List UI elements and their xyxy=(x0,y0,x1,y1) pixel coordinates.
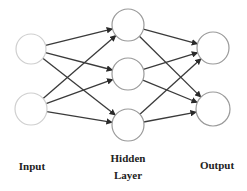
hidden-node-h3 xyxy=(112,109,144,141)
input-node-i2 xyxy=(15,93,47,125)
output-node-o1 xyxy=(197,32,229,64)
edge-i2-h2 xyxy=(46,79,113,103)
output-layer-label: Output xyxy=(194,159,240,171)
edge-i2-h3 xyxy=(47,112,112,123)
hidden-layer-label-line2: Layer xyxy=(103,169,153,181)
hidden-node-h1 xyxy=(112,9,144,41)
input-layer-label: Input xyxy=(12,160,52,172)
edge-h2-o2 xyxy=(143,80,198,102)
hidden-layer-label: Hidden Layer xyxy=(103,152,153,181)
hidden-layer-label-line1: Hidden xyxy=(103,152,153,164)
input-node-i1 xyxy=(16,34,46,64)
edge-h3-o2 xyxy=(144,112,197,122)
edge-h1-o1 xyxy=(143,29,197,44)
nodes-group xyxy=(15,9,230,141)
hidden-node-h2 xyxy=(112,58,144,90)
output-node-o2 xyxy=(196,92,230,126)
edge-i1-h1 xyxy=(46,29,113,46)
